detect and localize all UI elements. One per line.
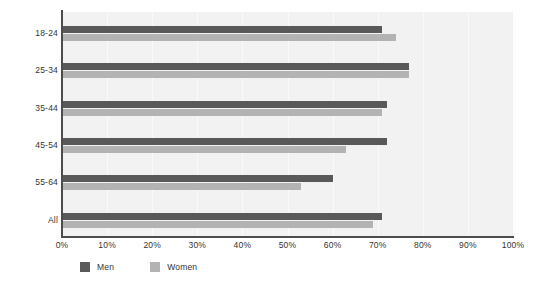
- bar-men-45-54: [62, 138, 387, 145]
- gridlines: [62, 12, 513, 236]
- y-tick-label-45-54: 45-54: [4, 140, 58, 150]
- x-tick-label-30pct: 30%: [188, 240, 206, 250]
- y-axis-tick-labels: 18-2425-3435-4445-5455-64All: [0, 12, 58, 236]
- x-tick-label-60pct: 60%: [324, 240, 342, 250]
- bar-men-55-64: [62, 175, 333, 182]
- plot-area: [62, 12, 513, 236]
- gridline: [378, 12, 379, 236]
- gridline: [107, 12, 108, 236]
- bar-men-18-24: [62, 26, 382, 33]
- x-axis-line: [61, 236, 514, 238]
- bar-group: [62, 26, 513, 41]
- x-tick-label-80pct: 80%: [414, 240, 432, 250]
- x-tick-label-40pct: 40%: [234, 240, 252, 250]
- legend-item-women[interactable]: Women: [150, 262, 197, 272]
- bar-men-25-34: [62, 63, 409, 70]
- bar-group: [62, 63, 513, 78]
- x-tick-label-70pct: 70%: [369, 240, 387, 250]
- bar-group: [62, 138, 513, 153]
- bar-group: [62, 101, 513, 116]
- gridline: [333, 12, 334, 236]
- chart-legend: MenWomen: [80, 262, 197, 272]
- bar-women-45-54: [62, 146, 346, 153]
- legend-swatch-icon: [150, 262, 160, 272]
- x-tick-label-100pct: 100%: [502, 240, 525, 250]
- gridline: [197, 12, 198, 236]
- bar-women-25-34: [62, 71, 409, 78]
- y-tick-label-55-64: 55-64: [4, 177, 58, 187]
- gridline: [242, 12, 243, 236]
- x-tick-label-20pct: 20%: [143, 240, 161, 250]
- legend-item-men[interactable]: Men: [80, 262, 114, 272]
- y-tick-label-25-34: 25-34: [4, 65, 58, 75]
- bar-women-35-44: [62, 109, 382, 116]
- y-tick-label-35-44: 35-44: [4, 103, 58, 113]
- legend-label: Women: [167, 262, 197, 272]
- bar-women-55-64: [62, 183, 301, 190]
- legend-swatch-icon: [80, 262, 90, 272]
- y-tick-label-all: All: [4, 215, 58, 225]
- x-axis-tick-labels: 0%10%20%30%40%50%60%70%80%90%100%: [62, 240, 513, 254]
- gridline: [152, 12, 153, 236]
- legend-label: Men: [97, 262, 114, 272]
- x-tick-label-90pct: 90%: [459, 240, 477, 250]
- y-tick-label-18-24: 18-24: [4, 28, 58, 38]
- bar-men-all: [62, 213, 382, 220]
- bar-women-18-24: [62, 34, 396, 41]
- x-tick-label-50pct: 50%: [279, 240, 297, 250]
- gridline: [468, 12, 469, 236]
- bar-women-all: [62, 221, 373, 228]
- x-tick-label-0pct: 0%: [56, 240, 69, 250]
- bar-chart: 18-2425-3435-4445-5455-64All 0%10%20%30%…: [0, 0, 550, 289]
- gridline: [423, 12, 424, 236]
- gridline: [288, 12, 289, 236]
- bar-group: [62, 213, 513, 228]
- x-tick-label-10pct: 10%: [98, 240, 116, 250]
- y-axis-line: [61, 10, 63, 238]
- bar-men-35-44: [62, 101, 387, 108]
- bar-group: [62, 175, 513, 190]
